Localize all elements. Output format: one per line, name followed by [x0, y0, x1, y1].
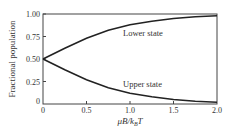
- y-tick-1.00: 1.00: [26, 10, 40, 19]
- x-tick-1.0: 1.0: [125, 106, 135, 115]
- population-chart: 1.00 0.75 0.50 0.25 0 0 0.5 1.0 1.5 2.0 …: [0, 0, 235, 128]
- lower-state-label: Lower state: [123, 28, 163, 38]
- y-tick-0.25: 0.25: [26, 78, 40, 87]
- x-axis-title: μB/kBT: [116, 116, 143, 127]
- y-tick-0: 0: [36, 97, 40, 106]
- y-axis-title: Fractional population: [7, 20, 17, 98]
- upper-state-label: Upper state: [123, 79, 162, 89]
- x-tick-1.5: 1.5: [169, 106, 179, 115]
- x-tick-0: 0: [41, 106, 45, 115]
- y-tick-0.50: 0.50: [26, 55, 40, 64]
- y-tick-0.75: 0.75: [26, 33, 40, 42]
- x-tick-0.5: 0.5: [82, 106, 92, 115]
- x-tick-2.0: 2.0: [212, 106, 222, 115]
